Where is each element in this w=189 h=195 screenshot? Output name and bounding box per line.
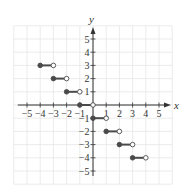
closed-endpoint-icon (51, 76, 56, 81)
step-segment (38, 63, 56, 68)
closed-endpoint-icon (104, 129, 109, 134)
y-axis-arrow-icon (91, 27, 96, 34)
open-endpoint-icon (78, 90, 83, 95)
closed-endpoint-icon (38, 63, 43, 68)
open-endpoint-icon (51, 63, 56, 68)
y-tick-label: −3 (79, 139, 90, 150)
open-endpoint-icon (130, 142, 135, 147)
open-endpoint-icon (117, 129, 122, 134)
y-tick-label: −4 (79, 152, 90, 163)
x-axis-label: x (173, 99, 179, 111)
step-segment (78, 103, 96, 108)
y-tick-label: 1 (85, 86, 90, 97)
step-segment (104, 129, 122, 134)
step-segment (51, 76, 69, 81)
step-segment (117, 142, 135, 147)
step-function-chart: −5−4−3−2−11234554321−1−2−3−4−5 x y (0, 0, 189, 195)
axes (18, 27, 171, 176)
y-tick-label: −1 (79, 113, 90, 124)
open-endpoint-icon (91, 103, 96, 108)
closed-endpoint-icon (64, 90, 69, 95)
closed-endpoint-icon (78, 103, 83, 108)
closed-endpoint-icon (130, 156, 135, 161)
x-tick-label: −2 (61, 108, 72, 119)
x-tick-label: −5 (22, 108, 33, 119)
closed-endpoint-icon (91, 116, 96, 121)
x-tick-label: −4 (35, 108, 46, 119)
x-tick-label: 3 (130, 108, 135, 119)
x-tick-label: −3 (48, 108, 59, 119)
step-segment (64, 90, 82, 95)
x-tick-label: 4 (143, 108, 148, 119)
y-tick-label: 5 (85, 34, 90, 45)
open-endpoint-icon (144, 156, 149, 161)
y-tick-label: 3 (85, 60, 90, 71)
x-tick-label: 2 (117, 108, 122, 119)
step-segment (130, 156, 148, 161)
step-segment (91, 116, 109, 121)
y-axis-label: y (88, 13, 94, 25)
y-tick-label: −2 (79, 126, 90, 137)
open-endpoint-icon (64, 76, 69, 81)
x-tick-label: 5 (157, 108, 162, 119)
y-tick-label: −5 (79, 166, 90, 177)
y-tick-label: 2 (85, 73, 90, 84)
closed-endpoint-icon (117, 142, 122, 147)
x-axis-arrow-icon (164, 103, 171, 108)
open-endpoint-icon (104, 116, 109, 121)
y-tick-label: 4 (85, 47, 90, 58)
